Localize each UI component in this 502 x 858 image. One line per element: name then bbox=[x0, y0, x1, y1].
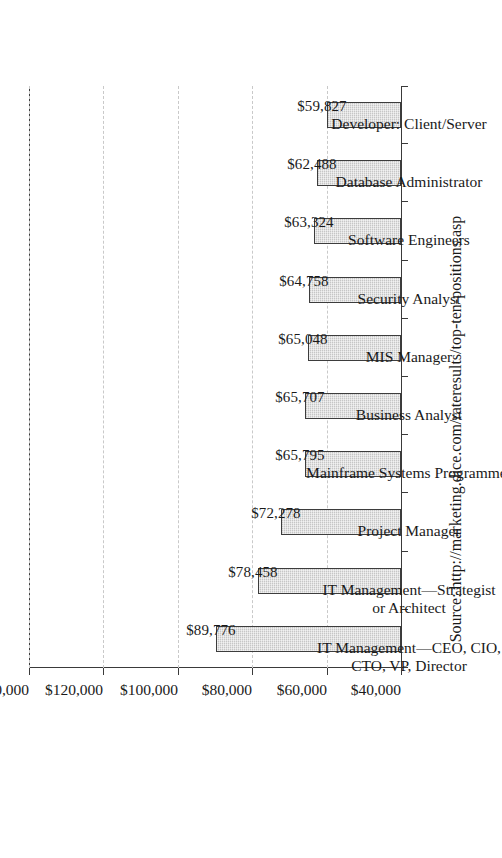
category-label: MIS Manager bbox=[366, 348, 453, 366]
value-tick-label: $100,000 bbox=[120, 681, 178, 699]
bar-value-label: $62,488 bbox=[288, 156, 337, 173]
bar-value-label: $72,278 bbox=[251, 506, 300, 523]
category-label-slot: Mainframe Systems Programmer bbox=[409, 435, 483, 493]
category-label: IT Management—Strategistor Architect bbox=[322, 581, 495, 618]
value-tick bbox=[29, 668, 30, 675]
category-tick bbox=[401, 143, 408, 144]
category-label-line: or Architect bbox=[322, 599, 495, 617]
bar-value-label: $65,707 bbox=[276, 389, 325, 406]
value-tick bbox=[178, 668, 179, 675]
bar-slot: $63,324 bbox=[29, 202, 401, 260]
value-tick bbox=[327, 668, 328, 675]
category-label-slot: IT Management—CEO, CIO,CTO, VP, Director bbox=[409, 610, 483, 668]
category-label: Security Analyst bbox=[358, 290, 461, 308]
value-tick-label: $60,000 bbox=[276, 681, 326, 699]
bar-slot: $65,048 bbox=[29, 319, 401, 377]
value-tick bbox=[401, 668, 402, 675]
category-axis-labels: IT Management—CEO, CIO,CTO, VP, Director… bbox=[409, 86, 483, 668]
category-label-line: MIS Manager bbox=[366, 348, 453, 366]
bar-chart-figure: $89,776$78,458$72,278$65,795$65,707$65,0… bbox=[17, 34, 485, 824]
category-label-line: Security Analyst bbox=[358, 290, 461, 308]
category-tick bbox=[401, 86, 408, 87]
category-tick bbox=[401, 434, 408, 435]
bar-value-label: $65,048 bbox=[278, 331, 327, 348]
bar-value-label: $65,795 bbox=[275, 447, 324, 464]
chart-page: $89,776$78,458$72,278$65,795$65,707$65,0… bbox=[0, 0, 502, 858]
category-label: Project Manager bbox=[358, 523, 461, 541]
category-tick bbox=[401, 551, 408, 552]
category-label-slot: Security Analyst bbox=[409, 261, 483, 319]
value-tick bbox=[103, 668, 104, 675]
value-tick-label: $120,000 bbox=[45, 681, 103, 699]
category-label-slot: IT Management—Strategistor Architect bbox=[409, 552, 483, 610]
value-axis-labels: $40,000$60,000$80,000$100,000$120,000$14… bbox=[29, 678, 401, 824]
category-label: Mainframe Systems Programmer bbox=[306, 464, 502, 482]
category-label-line: Mainframe Systems Programmer bbox=[306, 464, 502, 482]
bar-value-label: $64,758 bbox=[279, 273, 328, 290]
category-tick bbox=[401, 201, 408, 202]
source-note: Source: http://marketing.dice.com/ratere… bbox=[447, 34, 465, 824]
bar-slot: $64,758 bbox=[29, 261, 401, 319]
value-tick-label: $40,000 bbox=[351, 681, 401, 699]
figure-rotator: $89,776$78,458$72,278$65,795$65,707$65,0… bbox=[17, 34, 485, 824]
category-label-slot: Project Manager bbox=[409, 493, 483, 551]
category-label-slot: Database Administrator bbox=[409, 144, 483, 202]
category-label-slot: Business Analyst bbox=[409, 377, 483, 435]
category-tick bbox=[401, 260, 408, 261]
value-tick-label: $140,000 bbox=[0, 681, 29, 699]
bar-value-label: $59,827 bbox=[298, 98, 347, 115]
category-tick bbox=[401, 492, 408, 493]
value-tick bbox=[252, 668, 253, 675]
category-label-slot: Developer: Client/Server bbox=[409, 86, 483, 144]
value-tick-label: $80,000 bbox=[202, 681, 252, 699]
bar-slot: $72,278 bbox=[29, 493, 401, 551]
category-label-line: Project Manager bbox=[358, 523, 461, 541]
value-tick-marks bbox=[29, 668, 401, 675]
category-tick bbox=[401, 376, 408, 377]
category-label-slot: Software Engineers bbox=[409, 202, 483, 260]
category-label-slot: MIS Manager bbox=[409, 319, 483, 377]
bar-value-label: $78,458 bbox=[228, 564, 277, 581]
bar-value-label: $89,776 bbox=[186, 622, 235, 639]
category-label-line: IT Management—Strategist bbox=[322, 581, 495, 599]
bar-slot: $65,707 bbox=[29, 377, 401, 435]
category-tick bbox=[401, 318, 408, 319]
bar-value-label: $63,324 bbox=[285, 214, 334, 231]
category-label-line: IT Management—CEO, CIO, bbox=[317, 639, 501, 657]
